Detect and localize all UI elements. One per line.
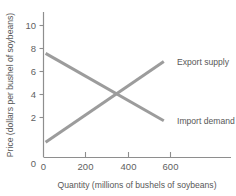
axes bbox=[44, 12, 232, 158]
y-tick-label-2: 2 bbox=[31, 112, 36, 123]
chart-container: 10 8 6 4 2 0 0 200 400 600 Export supply… bbox=[0, 0, 236, 196]
y-tick-label-4: 4 bbox=[31, 89, 36, 100]
soybean-export-supply-import-demand-chart: 10 8 6 4 2 0 0 200 400 600 Export supply… bbox=[0, 0, 236, 196]
y-tick-label-6: 6 bbox=[31, 66, 36, 77]
y-tick-label-10: 10 bbox=[25, 20, 36, 31]
x-tick-label-0: 0 bbox=[41, 161, 46, 172]
series-labels: Export supply Import demand bbox=[177, 57, 235, 126]
x-axis-title: Quantity (millions of bushels of soybean… bbox=[57, 180, 216, 190]
x-tick-label-600: 600 bbox=[163, 161, 179, 172]
y-axis-title: Price (dollars per bushel of soybeans) bbox=[5, 13, 15, 157]
x-axis-ticks bbox=[86, 152, 171, 158]
y-tick-labels: 10 8 6 4 2 0 bbox=[25, 20, 36, 169]
x-tick-label-200: 200 bbox=[78, 161, 94, 172]
export-supply-line bbox=[46, 61, 164, 142]
x-tick-labels: 0 200 400 600 bbox=[41, 161, 179, 172]
y-tick-label-0: 0 bbox=[31, 158, 36, 169]
import-demand-line bbox=[46, 53, 164, 120]
y-tick-label-8: 8 bbox=[31, 43, 36, 54]
x-tick-label-400: 400 bbox=[121, 161, 137, 172]
data-series bbox=[46, 53, 164, 142]
export-supply-label: Export supply bbox=[177, 57, 230, 67]
import-demand-label: Import demand bbox=[177, 116, 235, 126]
